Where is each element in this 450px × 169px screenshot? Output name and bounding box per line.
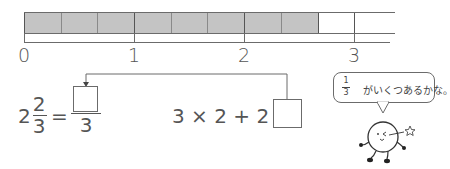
character-illustration [0,0,450,169]
